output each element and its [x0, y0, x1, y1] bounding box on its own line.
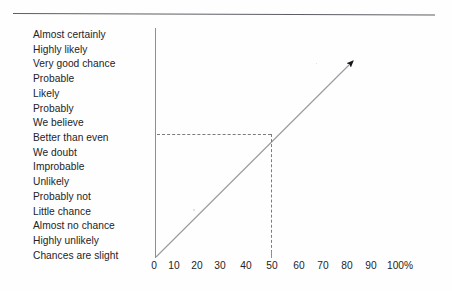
- x-tick-label: 10: [168, 259, 179, 272]
- x-tick-label: 50: [266, 259, 277, 272]
- y-axis-line: [155, 28, 156, 258]
- x-tick-label: 30: [214, 259, 225, 272]
- dashed-horizontal-indicator: [157, 134, 271, 135]
- x-tick-label: 60: [293, 259, 304, 272]
- x-tick-label: 0: [151, 259, 157, 272]
- dashed-vertical-indicator: [271, 134, 272, 258]
- scan-speck: [316, 63, 317, 64]
- x-tick-label: 20: [191, 259, 202, 272]
- x-tick-label: 40: [240, 259, 251, 272]
- x-axis-tick-labels: 0 10 20 30 40 50 60 70 80 90 100%: [0, 259, 452, 273]
- x-tick-label: 90: [365, 259, 376, 272]
- x-tick-label: 80: [341, 259, 352, 272]
- plot-area: 0 10 20 30 40 50 60 70 80 90 100%: [0, 0, 452, 291]
- scan-speck: [193, 209, 195, 211]
- diagonal-trend-line: [156, 61, 353, 257]
- x-tick-label: 100%: [387, 259, 413, 272]
- x-axis-tick-mark-50: [271, 251, 272, 258]
- trend-line-svg: [0, 0, 452, 291]
- figure-page: Almost certainly Highly likely Very good…: [0, 0, 452, 291]
- x-tick-label: 70: [317, 259, 328, 272]
